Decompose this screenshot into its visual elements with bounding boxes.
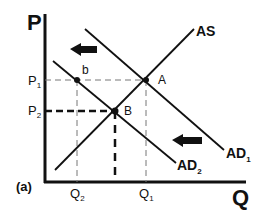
left-arrow-icon (172, 134, 202, 147)
point-b (74, 77, 80, 83)
p1-label-main: P (28, 73, 37, 88)
ad2-label-main: AD (177, 157, 197, 173)
point-a-label: A (158, 73, 166, 87)
q2-label: Q2 (70, 186, 85, 203)
x-axis-label: Q (232, 185, 249, 210)
q1-label: Q1 (139, 186, 154, 203)
ad2-label: AD2 (177, 157, 202, 176)
p2-label-subscript: 2 (37, 111, 42, 120)
as-label: AS (196, 23, 215, 39)
point-b-label: b (82, 63, 89, 77)
p2-label-main: P (28, 103, 37, 118)
ad1-label-main: AD (226, 145, 246, 161)
ad2-label-subscript: 2 (197, 167, 202, 176)
ad1-curve (85, 29, 224, 150)
ad-as-diagram: P Q b A B AS AD1 AD2 P1 P2 Q2 Q1 (a) (0, 0, 261, 214)
q1-label-main: Q (139, 186, 149, 201)
p1-label: P1 (28, 73, 42, 90)
point-B-label: B (124, 104, 132, 118)
p2-label: P2 (28, 103, 42, 120)
q2-label-main: Q (70, 186, 80, 201)
point-B (112, 108, 119, 115)
p1-label-subscript: 1 (37, 81, 42, 90)
q1-label-subscript: 1 (149, 194, 154, 203)
left-arrow-icon (70, 43, 97, 56)
y-axis-label: P (27, 10, 42, 35)
ad1-label: AD1 (226, 145, 251, 164)
q2-label-subscript: 2 (80, 194, 85, 203)
point-a (143, 77, 149, 83)
panel-label: (a) (16, 179, 32, 194)
ad1-label-subscript: 1 (246, 155, 251, 164)
